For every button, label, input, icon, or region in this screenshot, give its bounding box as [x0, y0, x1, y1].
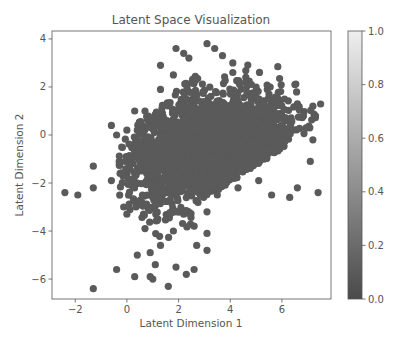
scatter-point — [108, 122, 115, 129]
colorbar-ticks: 0.00.20.40.60.81.0 — [362, 26, 384, 305]
scatter-point — [229, 59, 236, 66]
scatter-point — [116, 158, 123, 165]
scatter-point — [309, 103, 316, 110]
scatter-point — [191, 266, 198, 273]
scatter-point — [255, 177, 262, 184]
scatter-point — [157, 62, 164, 69]
scatter-point — [253, 83, 260, 90]
scatter-point — [294, 184, 301, 191]
colorbar-tick-label: 0.0 — [368, 294, 384, 305]
scatter-point — [134, 127, 141, 134]
scatter-figure: Latent Space Visualization −20246 −6−4−2… — [0, 0, 409, 346]
y-axis-label: Latent Dimension 2 — [13, 114, 25, 217]
scatter-point — [229, 69, 236, 76]
scatter-point — [219, 52, 226, 59]
scatter-point — [61, 189, 68, 196]
y-axis-ticks: −6−4−2024 — [31, 33, 52, 284]
scatter-point — [286, 194, 293, 201]
scatter-point — [315, 189, 322, 196]
y-tick-label: 2 — [40, 81, 46, 92]
scatter-point — [172, 264, 179, 271]
x-axis-ticks: −20246 — [68, 299, 285, 315]
scatter-point — [123, 127, 130, 134]
colorbar-tick-label: 0.8 — [368, 79, 384, 90]
scatter-points — [61, 40, 324, 292]
scatter-point — [172, 45, 179, 52]
scatter-point — [307, 158, 314, 165]
scatter-point — [183, 271, 190, 278]
scatter-point — [294, 100, 301, 107]
scatter-point — [203, 230, 210, 237]
scatter-point — [157, 242, 164, 249]
scatter-point — [242, 74, 249, 81]
scatter-point — [134, 252, 141, 259]
scatter-point — [203, 40, 210, 47]
chart-title: Latent Space Visualization — [112, 13, 270, 27]
scatter-point — [214, 191, 221, 198]
scatter-point — [154, 215, 161, 222]
scatter-point — [268, 191, 275, 198]
scatter-point — [90, 163, 97, 170]
scatter-point — [147, 249, 154, 256]
scatter-point — [265, 91, 272, 98]
x-tick-label: −2 — [68, 304, 83, 315]
scatter-point — [131, 107, 138, 114]
scatter-point — [211, 45, 218, 52]
y-tick-label: 0 — [40, 129, 46, 140]
scatter-point — [152, 261, 159, 268]
colorbar-tick-label: 0.6 — [368, 133, 384, 144]
scatter-point — [123, 211, 130, 218]
x-tick-label: 2 — [175, 304, 181, 315]
scatter-point — [90, 285, 97, 292]
scatter-point — [118, 143, 125, 150]
scatter-point — [108, 177, 115, 184]
colorbar — [348, 31, 362, 299]
scatter-point — [157, 86, 164, 93]
scatter-point — [113, 266, 120, 273]
scatter-point — [203, 208, 210, 215]
scatter-point — [180, 211, 187, 218]
x-axis-label: Latent Dimension 1 — [140, 317, 243, 329]
scatter-point — [170, 71, 177, 78]
scatter-point — [309, 136, 316, 143]
scatter-point — [147, 273, 154, 280]
scatter-point — [185, 55, 192, 62]
scatter-point — [141, 225, 148, 232]
y-tick-label: −2 — [31, 178, 46, 189]
colorbar-tick-label: 1.0 — [368, 26, 384, 37]
colorbar-tick-label: 0.2 — [368, 240, 384, 251]
x-tick-label: 0 — [124, 304, 130, 315]
scatter-point — [312, 112, 319, 119]
scatter-point — [90, 184, 97, 191]
y-tick-label: −4 — [31, 226, 46, 237]
x-tick-label: 4 — [227, 304, 233, 315]
x-tick-label: 6 — [279, 304, 285, 315]
scatter-point — [203, 247, 210, 254]
scatter-point — [131, 273, 138, 280]
scatter-point — [74, 191, 81, 198]
colorbar-tick-label: 0.4 — [368, 186, 384, 197]
y-tick-label: −6 — [31, 274, 46, 285]
scatter-point — [136, 201, 143, 208]
scatter-point — [281, 95, 288, 102]
scatter-point — [234, 184, 241, 191]
scatter-point — [193, 242, 200, 249]
scatter-point — [134, 179, 141, 186]
scatter-point — [191, 223, 198, 230]
scatter-point — [113, 131, 120, 138]
scatter-point — [141, 107, 148, 114]
scatter-point — [165, 283, 172, 290]
y-tick-label: 4 — [40, 33, 46, 44]
scatter-point — [170, 227, 177, 234]
